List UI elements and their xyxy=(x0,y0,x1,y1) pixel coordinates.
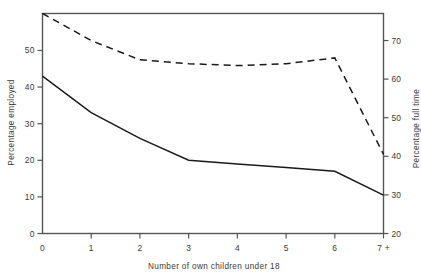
svg-text:6: 6 xyxy=(332,243,337,253)
svg-text:4: 4 xyxy=(235,243,240,253)
svg-text:30: 30 xyxy=(392,190,402,200)
left-axis-ticks: 01020304050 xyxy=(25,45,43,238)
svg-text:20: 20 xyxy=(392,229,402,239)
left-axis-title: Percentage employed xyxy=(7,63,16,183)
series-percentage-employed-line xyxy=(43,76,384,195)
svg-text:50: 50 xyxy=(25,45,35,55)
series-percentage-full-time-line xyxy=(43,14,384,155)
svg-text:40: 40 xyxy=(392,151,402,161)
plot-frame xyxy=(43,14,384,234)
svg-text:3: 3 xyxy=(186,243,191,253)
svg-text:5: 5 xyxy=(284,243,289,253)
svg-text:30: 30 xyxy=(25,119,35,129)
right-axis-title: Percentage full time xyxy=(412,69,421,189)
right-axis-ticks: 203040506070 xyxy=(384,36,402,239)
svg-text:1: 1 xyxy=(89,243,94,253)
svg-text:7 +: 7 + xyxy=(377,243,389,253)
svg-text:0: 0 xyxy=(30,229,35,239)
svg-text:60: 60 xyxy=(392,74,402,84)
svg-text:2: 2 xyxy=(137,243,142,253)
x-axis-title: Number of own children under 18 xyxy=(148,262,280,271)
x-axis-ticks: 01234567 + xyxy=(40,234,390,253)
svg-text:0: 0 xyxy=(40,243,45,253)
svg-text:40: 40 xyxy=(25,82,35,92)
chart-figure: Percentage employed Percentage full time… xyxy=(0,0,421,279)
svg-text:20: 20 xyxy=(25,155,35,165)
svg-text:70: 70 xyxy=(392,36,402,46)
svg-text:10: 10 xyxy=(25,192,35,202)
svg-text:50: 50 xyxy=(392,113,402,123)
plot-area: 01020304050 203040506070 01234567 + xyxy=(0,0,421,279)
